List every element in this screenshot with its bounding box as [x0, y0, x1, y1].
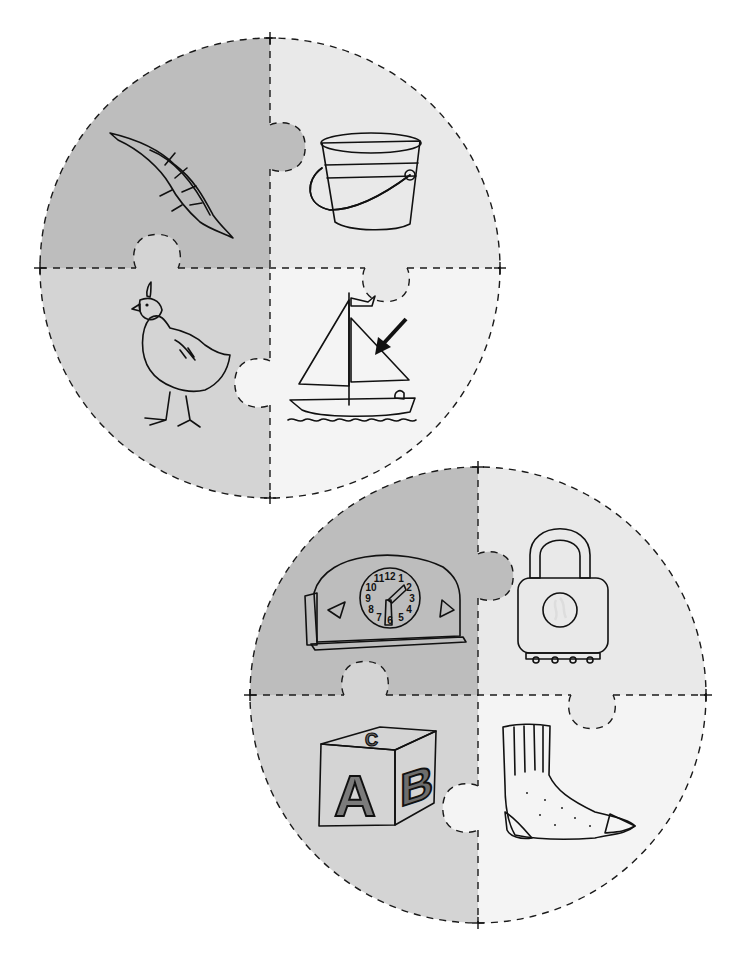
- clock-numeral: 12: [384, 571, 396, 582]
- clock-numeral: 9: [365, 593, 371, 604]
- puzzle-piece-bottom-right[interactable]: [270, 268, 500, 498]
- clock-numeral: 5: [398, 612, 404, 623]
- puzzle-piece-top-left[interactable]: [250, 467, 478, 695]
- block-letter-a: A: [334, 763, 376, 828]
- worksheet-canvas: feather pail quail sail: [0, 0, 742, 970]
- clock-numeral: 8: [368, 604, 374, 615]
- clock-numeral: 11: [374, 573, 385, 584]
- clock-numeral: 3: [409, 593, 415, 604]
- clock-numeral: 2: [406, 582, 412, 593]
- puzzle-2: [244, 461, 712, 929]
- puzzle-1: [34, 32, 506, 504]
- clock-numeral: 1: [398, 573, 404, 584]
- clock-numeral: 4: [406, 604, 412, 615]
- block-letter-c: C: [365, 730, 378, 750]
- block-letter-b: B: [400, 754, 433, 816]
- puzzle-piece-bottom-right[interactable]: [478, 695, 706, 923]
- clock-numeral: 7: [376, 612, 382, 623]
